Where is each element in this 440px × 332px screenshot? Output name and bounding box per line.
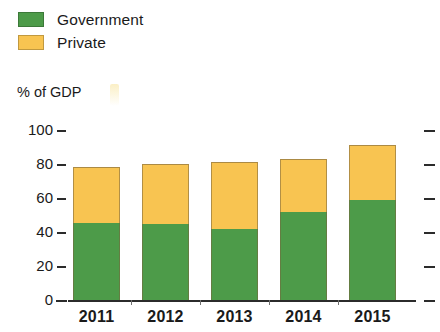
x-axis-label-2012: 2012	[126, 307, 206, 327]
x-axis-label-2014: 2014	[264, 307, 344, 327]
y-axis-tick-label: 0	[45, 291, 53, 308]
x-axis-tick-mark-2012	[200, 300, 201, 305]
y-axis-tick-label: 100	[28, 121, 53, 138]
bar-segment-private-2014	[280, 159, 327, 212]
bar-segment-government-2012	[142, 224, 189, 301]
y-axis-tick-60: 60	[6, 190, 66, 205]
bar-segment-government-2014	[280, 212, 327, 300]
right-axis-tick-mark-20	[424, 266, 435, 268]
x-axis-tick-mark-2014	[338, 300, 339, 305]
bar-segment-government-2013	[211, 229, 258, 300]
bar-2011	[73, 167, 120, 300]
bar-segment-private-2012	[142, 164, 189, 224]
y-axis-tick-20: 20	[6, 258, 66, 273]
bar-segment-government-2015	[349, 200, 396, 300]
right-axis-tick-mark-100	[424, 130, 435, 132]
y-axis-tick-mark	[57, 130, 66, 132]
right-axis-tick-mark-40	[424, 232, 435, 234]
x-axis-line	[68, 300, 416, 302]
y-axis-tick-label: 20	[36, 257, 53, 274]
bar-2014	[280, 159, 327, 300]
bar-2013	[211, 162, 258, 300]
chart-container: Government Private % of GDP 100806040200…	[0, 0, 440, 332]
y-axis-tick-label: 60	[36, 189, 53, 206]
y-axis-tick-mark	[57, 232, 66, 234]
right-axis-tick-mark-60	[424, 198, 435, 200]
y-axis-tick-label: 40	[36, 223, 53, 240]
y-axis-tick-40: 40	[6, 224, 66, 239]
y-axis-tick-label: 80	[36, 155, 53, 172]
right-axis-tick-mark-80	[424, 164, 435, 166]
bar-segment-private-2011	[73, 167, 120, 223]
bar-segment-private-2013	[211, 162, 258, 228]
y-axis-tick-100: 100	[6, 122, 66, 137]
baseline-right-cap	[424, 300, 435, 302]
x-axis-label-2011: 2011	[57, 307, 137, 327]
y-axis-tick-mark	[57, 164, 66, 166]
x-axis-label-2015: 2015	[333, 307, 413, 327]
baseline-left-cap	[56, 300, 67, 302]
plot-area: 10080604020020112012201320142015	[0, 0, 440, 332]
y-axis-tick-mark	[57, 198, 66, 200]
bar-2012	[142, 164, 189, 300]
bar-segment-private-2015	[349, 145, 396, 199]
bar-2015	[349, 145, 396, 300]
x-axis-tick-mark-2011	[131, 300, 132, 305]
bar-segment-government-2011	[73, 223, 120, 300]
x-axis-tick-mark-2013	[269, 300, 270, 305]
y-axis-tick-80: 80	[6, 156, 66, 171]
x-axis-label-2013: 2013	[195, 307, 275, 327]
y-axis-tick-mark	[57, 266, 66, 268]
